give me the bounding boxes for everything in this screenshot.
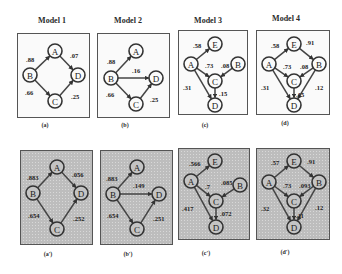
edge-weight-label: .73 (283, 182, 292, 189)
node-b: B (312, 175, 326, 189)
edge-b-to-c (117, 200, 133, 223)
edge-weight-label: .88 (107, 58, 116, 65)
node-label: E (212, 40, 218, 50)
edge-weight-label: .15 (296, 91, 305, 98)
node-c: C (50, 222, 64, 236)
node-label: B (27, 71, 33, 81)
node-c: C (209, 194, 223, 208)
node-d: D (287, 220, 301, 234)
edge-weight-label: .11 (296, 212, 304, 219)
edge-weight-label: .58 (193, 42, 202, 49)
node-label: A (266, 60, 273, 70)
graph-canvas: .88.16.66.25ABDC (98, 34, 171, 119)
node-label: A (52, 47, 59, 57)
edge-b-to-c (221, 68, 232, 76)
node-e: E (208, 154, 222, 168)
node-b: B (233, 178, 247, 192)
edge-weight-label: .07 (70, 52, 79, 59)
node-a: A (262, 57, 276, 71)
edge-b-to-c (37, 199, 53, 223)
edge-weight-label: .57 (271, 159, 280, 166)
panel-c: .58.73.08.31.15EABCD (178, 30, 248, 115)
edge-b-to-c (35, 80, 50, 96)
edge-weight-label: .91 (306, 39, 314, 46)
node-a: A (130, 160, 144, 174)
panel-a: .88.07.66.25ABDC (17, 33, 90, 118)
edge-weight-label: .149 (133, 182, 145, 189)
edge-weight-label: .883 (106, 175, 118, 182)
edge-weight-label: .654 (107, 212, 119, 219)
edge-a-to-e (274, 49, 288, 60)
edge-weight-label: .093 (299, 182, 311, 189)
caption-a: (a) (30, 122, 60, 128)
edge-weight-label: .31 (183, 84, 191, 91)
node-label: D (75, 71, 82, 81)
panel-d: .58.91.73.08.31.12.15EABCD (256, 30, 330, 115)
edge-weight-label: .66 (25, 89, 34, 96)
edge-a-to-e (196, 49, 209, 60)
node-label: E (291, 40, 297, 50)
node-b: B (23, 68, 37, 82)
node-label: D (153, 74, 160, 84)
edge-weight-label: .15 (219, 90, 228, 97)
node-d: D (71, 68, 85, 82)
edge-b-to-c (222, 189, 234, 197)
edge-weight-label: .73 (205, 62, 214, 69)
node-d: D (209, 220, 223, 234)
model-3-title: Model 3 (173, 16, 243, 25)
node-c: C (48, 94, 62, 108)
node-e: E (287, 37, 301, 51)
edge-e-to-b (299, 166, 313, 178)
node-d: D (152, 187, 166, 201)
edge-weight-label: .58 (271, 42, 280, 49)
node-label: B (30, 189, 36, 199)
node-label: E (212, 157, 218, 167)
edge-a-to-e (196, 166, 209, 177)
node-c: C (287, 74, 301, 88)
graph-canvas: .57.91.73.093.32.12.11EABCD (257, 149, 331, 241)
node-d: D (149, 71, 163, 85)
node-label: C (133, 100, 139, 110)
node-label: B (316, 60, 322, 70)
panel-d-prime: .57.91.73.093.32.12.11EABCD (256, 148, 330, 240)
edge-weight-label: .25 (71, 93, 80, 100)
edge-b-to-a (116, 57, 131, 73)
model-1-title: Model 1 (17, 16, 87, 25)
node-label: C (134, 225, 140, 235)
node-e: E (287, 154, 301, 168)
edge-b-to-a (38, 173, 52, 188)
node-label: B (316, 178, 322, 188)
graph-canvas: .883.149.654.251ABDC (101, 151, 174, 246)
edge-b-to-c (116, 83, 131, 99)
edge-weight-label: .566 (189, 160, 201, 167)
node-label: B (110, 190, 116, 200)
node-label: B (237, 181, 243, 191)
caption-c: (c) (190, 122, 220, 128)
panel-b-prime: .883.149.654.251ABDC (100, 150, 173, 245)
node-c: C (130, 222, 144, 236)
edge-weight-label: .12 (315, 84, 323, 91)
caption-c-prime: (c') (191, 250, 221, 256)
node-label: E (291, 157, 297, 167)
node-c: C (208, 74, 222, 88)
caption-d: (d) (270, 120, 300, 126)
node-label: D (78, 189, 85, 199)
node-label: C (52, 97, 58, 107)
node-label: D (213, 223, 220, 233)
panel-c-prime: .566.7.085.417.072EABCD (178, 148, 250, 240)
edge-weight-label: .251 (153, 215, 164, 222)
graph-canvas: .566.7.085.417.072EABCD (179, 149, 251, 241)
edge-weight-label: .056 (72, 171, 84, 178)
edge-weight-label: .66 (106, 91, 115, 98)
edge-weight-label: .08 (221, 62, 230, 69)
node-b: B (231, 57, 245, 71)
node-label: D (291, 223, 298, 233)
graph-canvas: .58.73.08.31.15EABCD (179, 31, 249, 116)
node-label: A (134, 163, 141, 173)
model-4-title: Model 4 (251, 14, 321, 23)
node-d: D (208, 98, 222, 112)
edge-weight-label: .08 (300, 63, 309, 70)
edge-weight-label: .73 (283, 63, 292, 70)
node-a: A (262, 175, 276, 189)
node-label: D (212, 101, 219, 111)
